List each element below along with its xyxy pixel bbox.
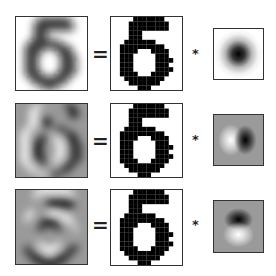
binary-digit-image [110, 103, 183, 178]
equals-sign: = [92, 44, 109, 64]
binary-digit-image [110, 16, 183, 91]
x-derivative-kernel-image [213, 114, 264, 166]
x-derivative-digit-image [15, 103, 88, 178]
convolution-operator: * [192, 47, 199, 60]
y-derivative-digit-image [15, 189, 88, 265]
convolution-operator: * [192, 218, 199, 231]
equals-sign: = [92, 215, 109, 235]
gaussian-kernel-image [213, 28, 264, 80]
blurred-digit-image [15, 16, 88, 91]
y-derivative-kernel-image [213, 200, 264, 253]
equals-sign: = [92, 131, 109, 151]
binary-digit-image [110, 189, 183, 266]
convolution-operator: * [192, 133, 199, 146]
